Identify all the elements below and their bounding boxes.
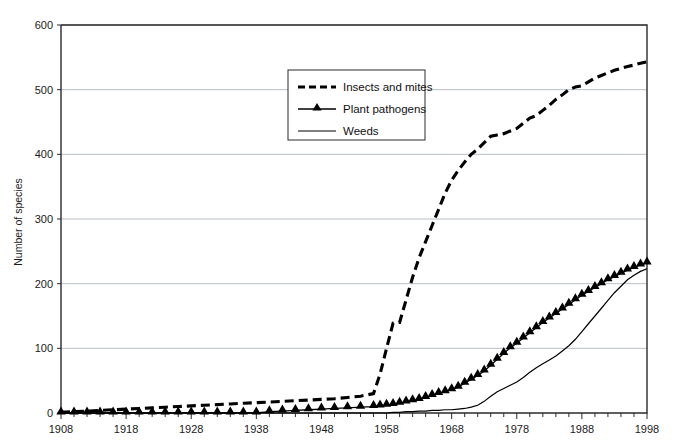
x-tick-label-1998: 1998 xyxy=(635,423,659,435)
x-tick-label-1948: 1948 xyxy=(309,423,333,435)
y-tick-label-400: 400 xyxy=(35,148,53,160)
chart-legend: Insects and mitesPlant pathogensWeeds xyxy=(288,70,433,140)
series-weeds xyxy=(61,269,647,413)
legend-label-weeds: Weeds xyxy=(343,125,379,137)
series-marker-plant-pathogens xyxy=(330,402,339,410)
series-marker-plant-pathogens xyxy=(408,394,417,402)
legend-label-insects-and-mites: Insects and mites xyxy=(343,81,433,93)
y-tick-label-100: 100 xyxy=(35,342,53,354)
series-marker-plant-pathogens xyxy=(304,403,313,411)
series-marker-plant-pathogens xyxy=(200,407,209,415)
legend-label-plant-pathogens: Plant pathogens xyxy=(343,103,426,115)
x-tick-label-1908: 1908 xyxy=(49,423,73,435)
x-tick-label-1988: 1988 xyxy=(570,423,594,435)
x-tick-label-1928: 1928 xyxy=(179,423,203,435)
series-marker-plant-pathogens xyxy=(356,401,365,409)
series-marker-plant-pathogens xyxy=(213,407,222,415)
series-marker-plant-pathogens xyxy=(265,405,274,413)
series-marker-plant-pathogens xyxy=(317,403,326,411)
y-tick-label-500: 500 xyxy=(35,84,53,96)
series-marker-plant-pathogens xyxy=(395,397,404,405)
series-marker-plant-pathogens xyxy=(291,404,300,412)
x-tick-label-1978: 1978 xyxy=(505,423,529,435)
series-line-weeds xyxy=(61,269,647,413)
series-marker-plant-pathogens xyxy=(187,407,196,415)
x-tick-label-1938: 1938 xyxy=(244,423,268,435)
x-tick-labels: 1908191819281938194819581968197819881998 xyxy=(49,423,659,435)
series-marker-plant-pathogens xyxy=(401,396,410,404)
series-marker-plant-pathogens xyxy=(343,401,352,409)
y-tick-label-600: 600 xyxy=(35,19,53,31)
series-marker-plant-pathogens xyxy=(239,407,248,415)
y-tick-labels: 0100200300400500600 xyxy=(35,19,53,419)
x-tick-label-1918: 1918 xyxy=(114,423,138,435)
y-tick-label-0: 0 xyxy=(47,407,53,419)
series-marker-plant-pathogens xyxy=(252,407,261,415)
y-axis-title: Number of species xyxy=(12,178,24,266)
series-marker-plant-pathogens xyxy=(388,398,397,406)
series-line-plant-pathogens xyxy=(61,263,647,413)
series-marker-plant-pathogens xyxy=(226,407,235,415)
x-tick-label-1958: 1958 xyxy=(374,423,398,435)
chart-svg: 0100200300400500600 19081918192819381948… xyxy=(0,0,677,447)
chart-container: 0100200300400500600 19081918192819381948… xyxy=(0,0,677,447)
x-tick-label-1968: 1968 xyxy=(439,423,463,435)
series-marker-plant-pathogens xyxy=(278,405,287,413)
y-tick-label-300: 300 xyxy=(35,213,53,225)
y-tick-label-200: 200 xyxy=(35,278,53,290)
series-plant-pathogens xyxy=(56,256,651,414)
series-marker-plant-pathogens xyxy=(642,256,651,264)
